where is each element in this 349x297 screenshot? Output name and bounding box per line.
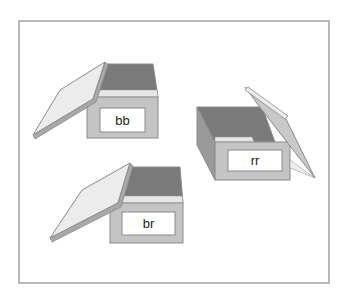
boxes-diagram: bb rr br — [0, 0, 349, 297]
box-label: rr — [251, 153, 260, 168]
box-inner-rim — [215, 137, 254, 142]
box-rr: rr — [197, 87, 315, 180]
box-br: br — [50, 163, 183, 243]
box-label: br — [143, 216, 155, 231]
box-inner-rim — [96, 90, 158, 97]
box-label: bb — [115, 113, 129, 128]
box-inner-rim — [119, 196, 183, 203]
box-bb: bb — [33, 62, 158, 139]
